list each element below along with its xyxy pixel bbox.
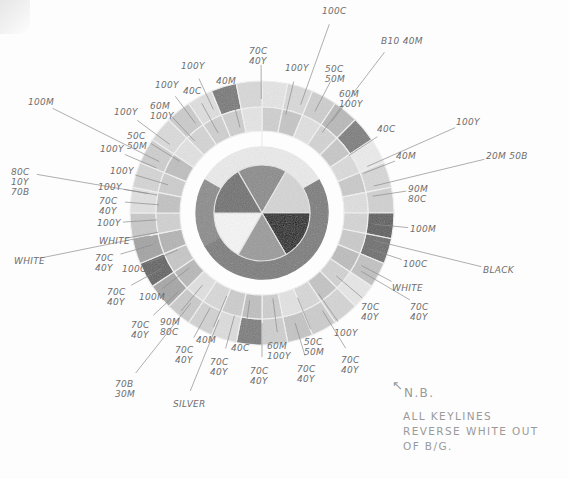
note-arrow: ↖ [392, 378, 404, 393]
label-80c-10y-70b: 80C 10Y 70B [11, 167, 30, 197]
label-20m-50b: 20M 50B [486, 151, 528, 161]
label-white-left: WHITE [14, 256, 45, 266]
label-70c-40y-g: 70C 40Y [250, 366, 269, 386]
label-70c-40y-a: 70C 40Y [99, 196, 118, 216]
label-70c-40y-c: 70C 40Y [107, 287, 126, 307]
note-line-1: ALL KEYLINES [403, 409, 492, 424]
label-100y-f: 100Y [97, 218, 121, 228]
label-white-a: WHITE [99, 236, 130, 246]
label-white-right: WHITE [392, 283, 423, 293]
label-60m-100y-a: 60M 100Y [339, 89, 363, 109]
note-line-2: REVERSE WHITE OUT [403, 424, 539, 439]
label-70c-40y-right-b: 70C 40Y [410, 302, 429, 322]
label-100y-left-top: 100Y [181, 61, 205, 71]
label-50c-50m-top: 50C 50M [325, 64, 345, 84]
sketch-canvas: 100CB10 40M70C 40Y100Y50C 50M100Y40M100Y… [0, 0, 569, 479]
label-100y-b: 100Y [114, 107, 138, 117]
label-40c-bottom: 40C [231, 343, 250, 353]
label-70c-40y-h: 70C 40Y [297, 364, 316, 384]
leader-line [374, 159, 485, 186]
label-70c-40y-d: 70C 40Y [131, 320, 150, 340]
label-b10-40m: B10 40M [381, 36, 423, 46]
label-100c-top: 100C [322, 6, 347, 16]
label-100y-top: 100Y [285, 63, 309, 73]
label-70c-40y-top: 70C 40Y [249, 46, 268, 66]
label-100y-right: 100Y [456, 117, 480, 127]
label-100y-e: 100Y [98, 182, 122, 192]
label-70c-40y-right-a: 70C 40Y [361, 302, 380, 322]
label-100m-bottom: 100M [139, 292, 165, 302]
label-100y-bottom: 100Y [334, 328, 358, 338]
label-70c-40y-i: 70C 40Y [341, 355, 360, 375]
label-100m-left: 100M [28, 97, 54, 107]
label-40c-top: 40C [183, 86, 202, 96]
label-70c-40y-f: 70C 40Y [210, 357, 229, 377]
label-40c-right: 40C [377, 124, 396, 134]
label-silver: SILVER [173, 399, 206, 409]
label-40m-bottom: 40M [196, 335, 216, 345]
label-50c-50m-left: 50C 50M [127, 131, 147, 151]
label-90m-80c: 90M 80C [408, 184, 428, 204]
label-100y-c: 100Y [100, 144, 124, 154]
note-line-3: OF B/G. [403, 439, 453, 454]
label-70b-30m: 70B 30M [115, 379, 135, 399]
label-90m-80c-bottom: 90M 80C [160, 317, 180, 337]
label-100m-right: 100M [410, 224, 436, 234]
outer-segment [366, 187, 394, 213]
note-title: N.B. [404, 386, 434, 401]
label-100y-d: 100Y [110, 166, 134, 176]
label-100c-right: 100C [403, 259, 428, 269]
label-40m-top: 40M [216, 76, 236, 86]
outer-segment [236, 81, 262, 109]
label-70c-40y-b: 70C 40Y [95, 253, 114, 273]
label-60m-100y-bottom: 60M 100Y [267, 341, 291, 361]
label-40m-right: 40M [396, 151, 416, 161]
label-black: BLACK [483, 265, 514, 275]
label-50c-50m-bottom: 50C 50M [304, 337, 324, 357]
label-70c-40y-e: 70C 40Y [175, 345, 194, 365]
label-100c-left: 100C [122, 264, 147, 274]
label-60m-100y-b: 60M 100Y [150, 101, 174, 121]
label-100y-a: 100Y [155, 80, 179, 90]
leader-line [332, 52, 385, 121]
